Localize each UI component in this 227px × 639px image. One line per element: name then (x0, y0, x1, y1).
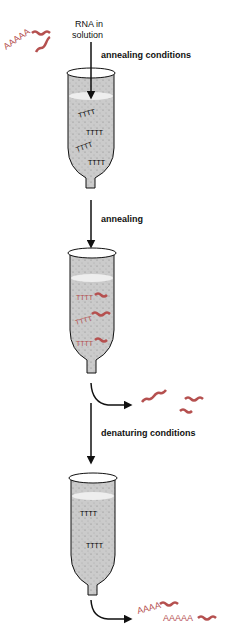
diagram-canvas: AAAAA TTTT TTTT TTTT TTTT TTTT TTTT TTTT… (0, 0, 227, 639)
svg-text:TTTT: TTTT (88, 159, 106, 166)
input-rna-icon: AAAAA (1, 26, 50, 52)
unbound-rna-icon (142, 390, 203, 413)
svg-text:TTTT: TTTT (86, 129, 104, 136)
svg-text:TTTT: TTTT (76, 294, 94, 301)
label-rna-in: RNA in (75, 19, 103, 30)
label-solution: solution (72, 30, 103, 41)
column-3: TTTT TTTT (69, 473, 117, 595)
eluted-rna-icon: AAAA AAAAA (136, 600, 216, 623)
svg-text:TTTT: TTTT (76, 340, 94, 347)
svg-text:TTTT: TTTT (86, 542, 104, 549)
svg-text:AAAA: AAAA (136, 600, 162, 616)
arrow-out-2 (91, 600, 128, 619)
svg-text:AAAAA: AAAAA (163, 613, 193, 623)
label-annealing-conditions: annealing conditions (101, 50, 191, 61)
svg-text:AAAAA: AAAAA (1, 26, 31, 51)
arrow-out-1 (91, 383, 128, 405)
column-2: TTTT TTTT TTTT (68, 248, 116, 373)
label-denaturing-conditions: denaturing conditions (101, 428, 196, 439)
label-annealing: annealing (101, 214, 143, 225)
svg-text:TTTT: TTTT (80, 510, 98, 517)
